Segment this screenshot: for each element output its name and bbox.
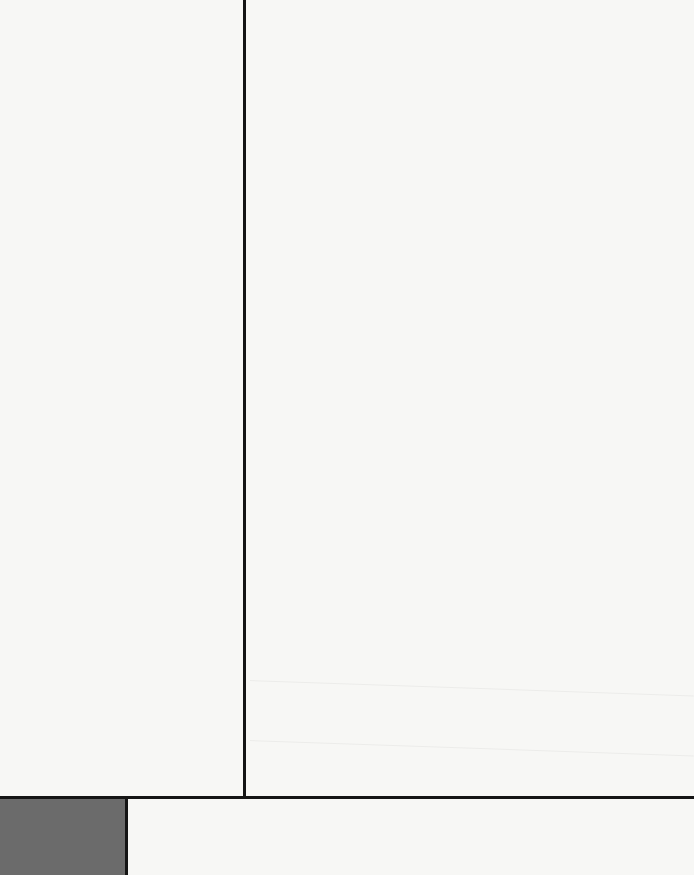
paper-texture-streak — [250, 740, 694, 756]
main-vertical-line — [243, 0, 246, 799]
paper-texture-streak — [250, 680, 694, 696]
bottom-vertical-line — [125, 796, 128, 875]
artwork-canvas — [0, 0, 694, 875]
gray-block — [0, 799, 125, 875]
